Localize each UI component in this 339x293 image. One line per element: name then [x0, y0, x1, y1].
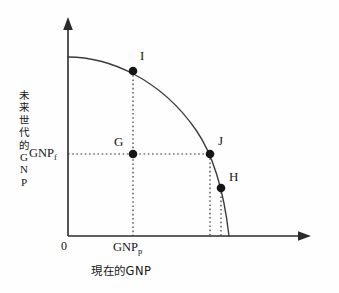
point-i [129, 67, 138, 76]
origin-label: 0 [61, 240, 67, 252]
y-axis-title-char-1: 来 [19, 101, 29, 113]
y-axis-title-char-6: N [20, 163, 28, 175]
guide-lines [68, 71, 221, 236]
ppf-curve [68, 57, 229, 236]
x-axis [68, 231, 311, 241]
y-axis-title-char-0: 未 [19, 89, 29, 101]
point-label-g: G [114, 135, 124, 148]
y-axis-title-char-5: G [20, 151, 28, 163]
point-label-j: J [218, 134, 223, 147]
point-h [217, 184, 226, 193]
ppf-figure: I G J H GNPf GNPp 0 現在的GNP 未 来 世 代 的 G N… [0, 0, 339, 293]
y-axis-title-char-7: P [21, 176, 27, 188]
x-tick-label-gnp-p: GNPp [113, 241, 142, 255]
y-axis [63, 17, 73, 236]
point-label-h: H [229, 170, 239, 183]
y-tick-label-subscript: f [54, 152, 57, 162]
y-axis-title-char-4: 的 [19, 139, 29, 151]
x-axis-title: 現在的GNP [91, 266, 151, 278]
point-label-i: I [140, 49, 145, 62]
y-axis-title-char-3: 代 [19, 126, 29, 138]
y-tick-label-gnp-f: GNPf [29, 147, 57, 161]
y-axis-title-char-2: 世 [19, 114, 29, 126]
x-tick-label-subscript: p [138, 246, 142, 256]
data-points [129, 67, 226, 193]
y-axis-title: 未 来 世 代 的 G N P [15, 89, 33, 188]
point-j [206, 150, 215, 159]
point-g [129, 150, 138, 159]
x-tick-label-text: GNP [113, 240, 138, 254]
